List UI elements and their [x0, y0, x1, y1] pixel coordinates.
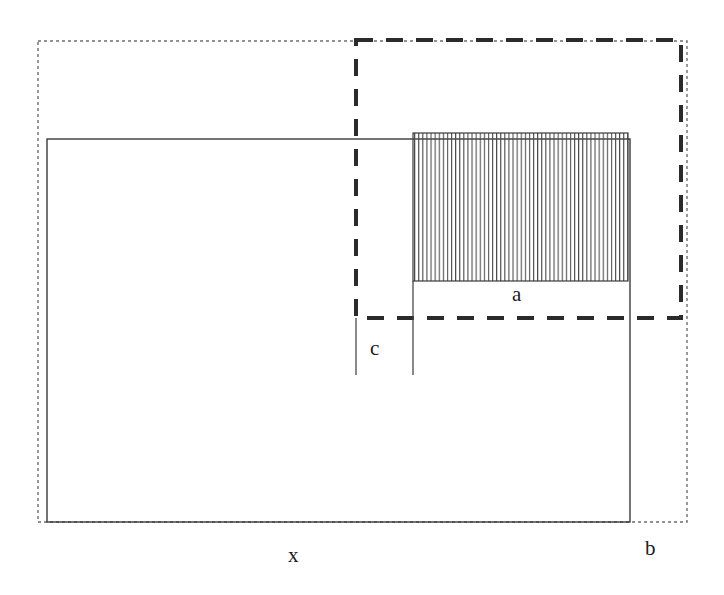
label-a: a	[512, 284, 521, 305]
label-x: x	[288, 545, 299, 566]
label-b: b	[645, 538, 656, 559]
diagram-canvas: a c x b	[0, 0, 724, 595]
hatched-rectangle-a	[413, 133, 628, 281]
figure-svg	[0, 0, 724, 595]
label-c: c	[370, 338, 379, 359]
